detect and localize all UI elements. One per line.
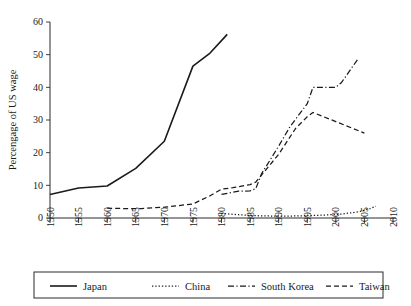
y-tick-label: 10 <box>33 180 43 191</box>
chart-canvas: 0102030405060 19501955196019651970197519… <box>0 0 411 306</box>
x-tick-label: 1955 <box>73 207 84 227</box>
x-tick-label: 1965 <box>130 207 141 227</box>
x-tick-label: 1970 <box>159 207 170 227</box>
x-axis-ticks: 1950195519601965197019751980198519901995… <box>45 207 399 227</box>
y-tick-label: 50 <box>33 49 43 60</box>
x-tick-label: 2005 <box>359 207 370 227</box>
legend: JapanChinaSouth KoreaTaiwan <box>50 281 391 292</box>
y-axis-ticks: 0102030405060 <box>33 16 50 223</box>
x-tick-label: 1960 <box>102 207 113 227</box>
x-tick-label: 2000 <box>330 207 341 227</box>
legend-label-taiwan: Taiwan <box>359 281 391 292</box>
series-line-japan <box>50 34 227 194</box>
y-tick-label: 40 <box>33 82 43 93</box>
x-tick-label: 1975 <box>188 207 199 227</box>
x-tick-label: 2010 <box>388 207 399 227</box>
line-chart: 0102030405060 19501955196019651970197519… <box>0 0 411 306</box>
y-axis-title: Percengage of US wage <box>7 69 18 170</box>
legend-label-south-korea: South Korea <box>261 281 314 292</box>
y-tick-label: 60 <box>33 16 43 27</box>
x-tick-label: 1995 <box>302 207 313 227</box>
data-series-group <box>50 34 376 216</box>
legend-label-china: China <box>185 281 210 292</box>
series-line-south-korea <box>222 58 359 195</box>
legend-label-japan: Japan <box>83 281 108 292</box>
x-tick-label: 1950 <box>45 207 56 227</box>
x-tick-label: 1980 <box>216 207 227 227</box>
x-tick-label: 1985 <box>245 207 256 227</box>
y-tick-label: 30 <box>33 114 43 125</box>
series-line-taiwan <box>107 112 364 208</box>
y-tick-label: 20 <box>33 147 43 158</box>
x-tick-label: 1990 <box>273 207 284 227</box>
y-tick-label: 0 <box>38 212 43 223</box>
